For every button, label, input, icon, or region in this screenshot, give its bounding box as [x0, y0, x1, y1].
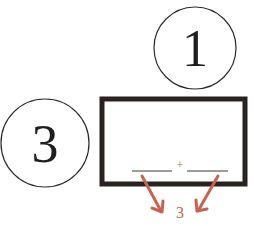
diagram-canvas: 1 3 + 3 — [0, 0, 254, 226]
result-label: 3 — [176, 204, 184, 221]
circle-three-label: 3 — [32, 114, 59, 174]
circle-one: 1 — [154, 7, 236, 89]
circle-one-label: 1 — [182, 20, 208, 77]
circle-three: 3 — [1, 99, 89, 187]
plus-operator: + — [177, 158, 184, 172]
